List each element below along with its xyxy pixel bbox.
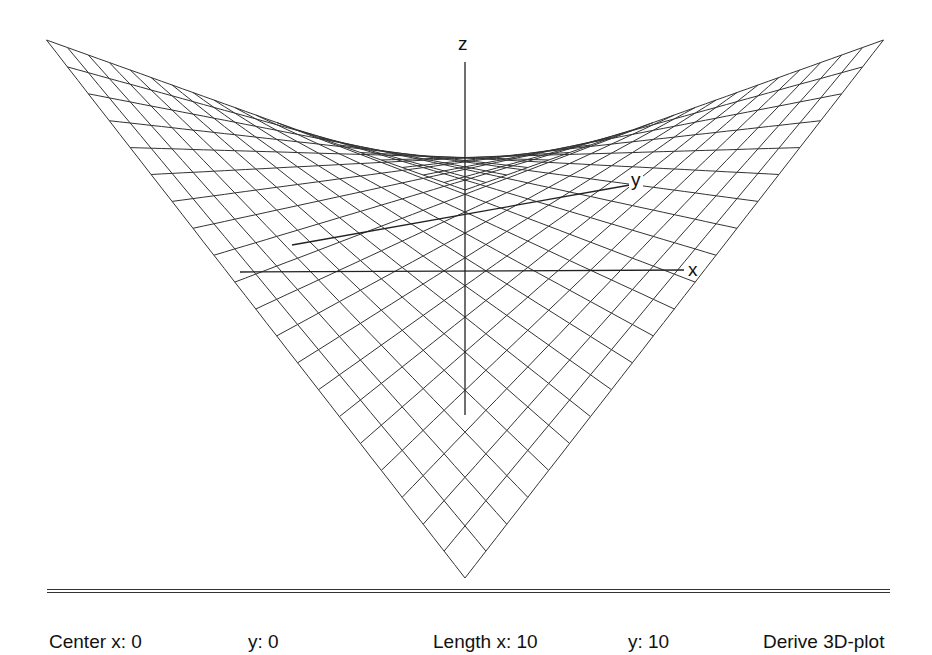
mesh-line (47, 40, 466, 190)
mesh-line (423, 94, 842, 175)
derive-3d-plot-button[interactable]: Derive 3D-plot (763, 631, 884, 653)
length-x-field[interactable]: Length x: 10 (433, 631, 538, 653)
divider-line-bottom (47, 592, 890, 593)
mesh-line (465, 40, 884, 190)
center-x-field[interactable]: Center x: 0 (49, 631, 142, 653)
mesh-line (67, 67, 486, 183)
surface-plot (0, 0, 932, 600)
divider-line-top (47, 589, 890, 590)
y-axis-label: y (629, 170, 643, 190)
z-axis-label: z (456, 34, 470, 54)
mesh-line (444, 67, 862, 183)
x-axis-line (240, 270, 684, 272)
mesh-line (88, 94, 507, 175)
center-y-field[interactable]: y: 0 (248, 631, 279, 653)
x-axis-label: x (686, 260, 700, 280)
y-axis-line (292, 185, 630, 245)
length-y-field[interactable]: y: 10 (628, 631, 669, 653)
